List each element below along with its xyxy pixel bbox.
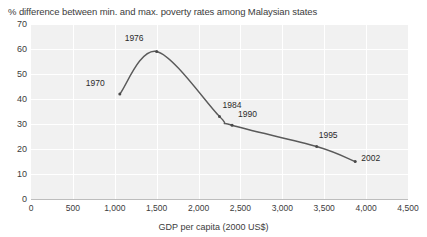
data-point-label: 1970 [86,78,105,88]
data-series-line [0,0,427,237]
data-point-label: 1995 [319,130,338,140]
data-point-label: 1990 [238,109,257,119]
data-point-label: 1984 [223,100,242,110]
data-point-marker [118,93,121,96]
x-axis-title: GDP per capita (2000 US$) [0,222,427,232]
data-point-marker [315,145,318,148]
data-point-marker [231,124,234,127]
chart-container: % difference between min. and max. pover… [0,0,427,237]
data-point-marker [218,115,221,118]
data-point-marker [155,50,158,53]
data-point-marker [354,160,357,163]
data-point-label: 2002 [361,153,380,163]
data-point-label: 1976 [125,33,144,43]
